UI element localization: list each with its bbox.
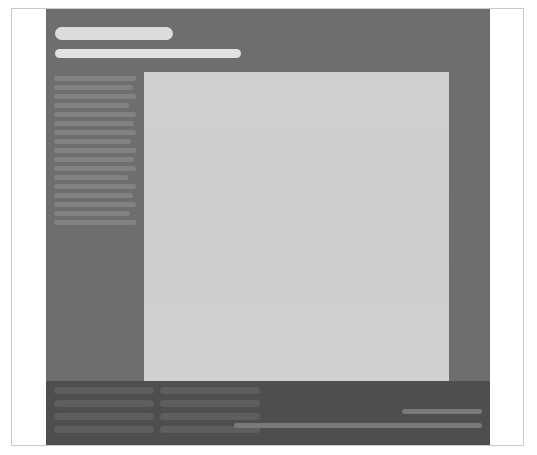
screenshot-root	[0, 0, 537, 455]
header-region	[46, 9, 490, 72]
footer-item-skeleton-a-2[interactable]	[54, 413, 154, 420]
sidebar-item-skeleton-9[interactable]	[54, 157, 134, 162]
app-shell	[46, 9, 490, 445]
header-title-skeleton	[55, 27, 173, 40]
sidebar-item-skeleton-7[interactable]	[54, 139, 131, 144]
footer-meta-short-skeleton	[402, 409, 482, 414]
sidebar-item-skeleton-3[interactable]	[54, 103, 129, 108]
sidebar-item-skeleton-6[interactable]	[54, 130, 136, 135]
sidebar-item-skeleton-5[interactable]	[54, 121, 134, 126]
sidebar-skeleton-list	[54, 76, 136, 229]
footer-item-skeleton-b-1[interactable]	[160, 400, 260, 407]
sidebar-item-skeleton-1[interactable]	[54, 85, 133, 90]
footer-region	[46, 381, 490, 445]
sidebar-item-skeleton-15[interactable]	[54, 211, 130, 216]
sidebar-item-skeleton-10[interactable]	[54, 166, 136, 171]
sidebar-item-skeleton-2[interactable]	[54, 94, 136, 99]
main-content-skeleton-surface	[144, 72, 449, 381]
sidebar-item-skeleton-13[interactable]	[54, 193, 133, 198]
header-subtitle-skeleton	[55, 49, 241, 58]
sidebar-item-skeleton-11[interactable]	[54, 175, 128, 180]
sidebar-item-skeleton-14[interactable]	[54, 202, 136, 207]
footer-meta-long-skeleton	[234, 423, 482, 428]
footer-meta-group	[227, 409, 482, 439]
sidebar-item-skeleton-0[interactable]	[54, 76, 136, 81]
footer-column-one	[54, 387, 154, 439]
sidebar-item-skeleton-16[interactable]	[54, 220, 136, 225]
footer-item-skeleton-a-3[interactable]	[54, 426, 154, 433]
sidebar-item-skeleton-8[interactable]	[54, 148, 136, 153]
right-gutter	[449, 72, 490, 381]
footer-item-skeleton-a-1[interactable]	[54, 400, 154, 407]
sidebar-item-skeleton-12[interactable]	[54, 184, 136, 189]
footer-item-skeleton-b-0[interactable]	[160, 387, 260, 394]
sidebar-region	[46, 72, 144, 381]
footer-item-skeleton-a-0[interactable]	[54, 387, 154, 394]
sidebar-item-skeleton-4[interactable]	[54, 112, 136, 117]
main-content-panel[interactable]	[144, 72, 449, 381]
